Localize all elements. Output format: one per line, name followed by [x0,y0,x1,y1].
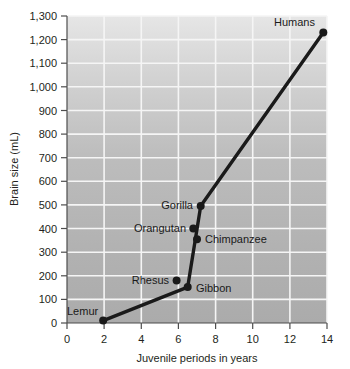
data-point-chimpanzee[interactable] [193,235,201,243]
y-tick-label: 0 [51,317,57,329]
data-point-lemur[interactable] [99,317,107,325]
data-point-humans[interactable] [319,29,327,37]
y-tick-label: 1,200 [29,34,57,46]
y-tick-label: 500 [39,199,57,211]
y-tick-label: 1,100 [29,57,57,69]
data-point-gibbon[interactable] [184,283,192,291]
data-point-rhesus[interactable] [173,277,181,285]
y-tick-label: 400 [39,223,57,235]
chart-svg: 1,300 1,200 1,100 1,000 900 800 700 600 … [0,0,350,369]
y-axis-title: Brain size (mL) [8,132,20,206]
x-tick-label: 14 [321,333,333,345]
plot-area-background [67,16,327,323]
y-tick-label: 300 [39,246,57,258]
y-tick-label: 100 [39,293,57,305]
data-point-gorilla[interactable] [197,202,205,210]
y-tick-label: 1,000 [29,81,57,93]
y-tick-label: 1,300 [29,10,57,22]
y-tick-label: 900 [39,105,57,117]
y-tick-label: 700 [39,152,57,164]
data-label-gibbon: Gibbon [196,282,231,294]
y-tick-label: 600 [39,175,57,187]
x-tick-label: 4 [138,333,144,345]
x-tick-label: 8 [213,333,219,345]
x-tick-label: 2 [101,333,107,345]
data-label-rhesus: Rhesus [132,274,170,286]
y-tick-label: 800 [39,128,57,140]
x-axis-title: Juvenile periods in years [136,352,258,364]
brain-size-chart-figure: 1,300 1,200 1,100 1,000 900 800 700 600 … [0,0,350,369]
data-label-chimpanzee: Chimpanzee [205,233,267,245]
data-label-humans: Humans [274,16,315,28]
data-label-orangutan: Orangutan [134,222,186,234]
x-tick-label: 0 [64,333,70,345]
x-tick-label: 6 [175,333,181,345]
data-label-lemur: Lemur [67,305,99,317]
x-tick-label: 12 [284,333,296,345]
data-point-orangutan[interactable] [189,225,197,233]
y-tick-label: 200 [39,270,57,282]
data-label-gorilla: Gorilla [161,199,194,211]
x-tick-label: 10 [247,333,259,345]
